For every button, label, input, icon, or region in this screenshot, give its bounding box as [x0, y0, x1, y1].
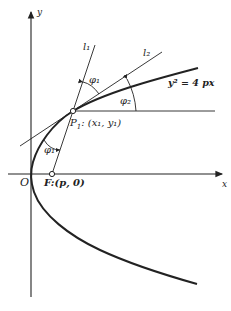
parabola-curve: [31, 68, 198, 284]
phi1-bottom-label: φ₁: [44, 144, 55, 155]
focus-label: F:(p, 0): [43, 177, 85, 189]
equation-label: y² = 4 px: [167, 77, 215, 88]
phi2-label: φ₂: [120, 95, 131, 106]
parabola-reflection-diagram: y x O l₁ l₂ φ₁ φ₂ φ₁ y² = 4 px P1: (x₁, …: [0, 0, 231, 311]
origin-label: O: [20, 176, 29, 189]
p1-coords: : (x₁, y₁): [81, 117, 121, 128]
point-p1: [70, 108, 75, 113]
l1-label: l₁: [83, 41, 90, 52]
y-axis-label: y: [36, 7, 43, 17]
l2-label: l₂: [143, 47, 150, 58]
line-l2: [20, 52, 162, 146]
phi1-top-label: φ₁: [89, 74, 100, 85]
p1-label: P1: (x₁, y₁): [69, 117, 121, 131]
x-axis-label: x: [222, 179, 227, 189]
point-focus: [49, 171, 54, 176]
